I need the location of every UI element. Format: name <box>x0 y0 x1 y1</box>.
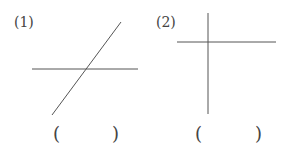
figure-2-answer-close-paren: ) <box>255 124 262 144</box>
figure-1-answer-open-paren: ( <box>53 124 60 144</box>
figure-2-answer-open-paren: ( <box>195 124 202 144</box>
figure-2-label: (2) <box>156 14 176 30</box>
figure-1-answer-close-paren: ) <box>112 124 119 144</box>
figure-1-label: (1) <box>14 14 34 30</box>
figures-canvas <box>0 0 284 156</box>
